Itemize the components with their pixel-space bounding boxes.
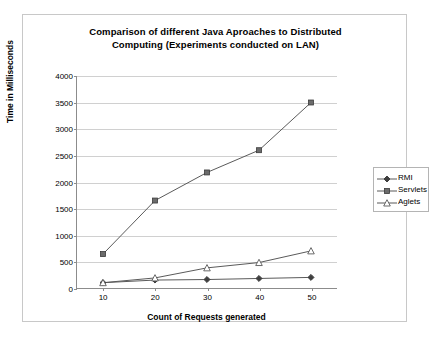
x-axis-tick-label: 20: [151, 293, 160, 302]
data-point-rmi: [256, 275, 262, 281]
y-axis-tick-label: 500: [60, 258, 73, 267]
chart-title-line-1: Comparison of different Java Aproaches t…: [53, 25, 378, 38]
legend-marker-open-triangle-icon: [376, 195, 398, 207]
data-point-servlets: [101, 252, 106, 257]
chart-title: Comparison of different Java Aproaches t…: [53, 25, 378, 51]
x-axis-tick-mark: [260, 288, 261, 291]
legend-item-aglets: Aglets: [376, 195, 426, 207]
legend-item-rmi: RMI: [376, 171, 426, 183]
data-point-servlets: [309, 100, 314, 105]
data-point-servlets: [205, 170, 210, 175]
y-axis-tick-label: 2000: [55, 178, 73, 187]
chart-title-line-2: Computing (Experiments conducted on LAN): [53, 38, 378, 51]
x-axis-title: Count of Requests generated: [76, 312, 337, 322]
y-axis-tick-label: 1500: [55, 205, 73, 214]
x-axis-tick-label: 30: [203, 293, 212, 302]
x-axis-tick-label: 10: [99, 293, 108, 302]
chart-container: Comparison of different Java Aproaches t…: [22, 14, 407, 322]
series-line-servlets: [103, 103, 311, 255]
data-point-rmi: [204, 277, 210, 283]
chart-legend: RMIServletsAglets: [373, 167, 429, 212]
y-axis-tick-label: 3500: [55, 98, 73, 107]
legend-label: Aglets: [398, 197, 420, 206]
legend-marker-filled-diamond-icon: [376, 171, 398, 183]
y-axis-tick-mark: [74, 289, 77, 290]
legend-marker-filled-square-icon: [376, 183, 398, 195]
y-axis-title: Time in Milliseconds: [5, 40, 15, 123]
legend-item-servlets: Servlets: [376, 183, 426, 195]
x-axis-tick-mark: [312, 288, 313, 291]
y-axis-tick-label: 1000: [55, 231, 73, 240]
y-axis-tick-label: 2500: [55, 151, 73, 160]
plot-area: 05001000150020002500300035004000 1020304…: [76, 76, 337, 289]
legend-label: RMI: [398, 173, 413, 182]
series-plot: [77, 76, 337, 288]
x-axis-tick-mark: [155, 288, 156, 291]
y-axis-tick-label: 4000: [55, 72, 73, 81]
y-axis-tick-label: 0: [69, 285, 73, 294]
data-point-servlets: [257, 148, 262, 153]
data-point-rmi: [308, 274, 314, 280]
data-point-aglets: [308, 248, 315, 254]
y-axis-tick-label: 3000: [55, 125, 73, 134]
data-point-servlets: [153, 198, 158, 203]
legend-label: Servlets: [398, 185, 427, 194]
x-axis-tick-mark: [103, 288, 104, 291]
x-axis-tick-label: 50: [307, 293, 316, 302]
x-axis-tick-mark: [208, 288, 209, 291]
x-axis-tick-label: 40: [255, 293, 264, 302]
